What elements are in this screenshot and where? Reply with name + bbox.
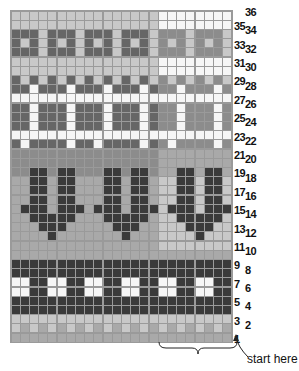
chart-cell xyxy=(196,251,204,259)
chart-cell xyxy=(48,39,56,47)
chart-cell xyxy=(168,177,176,185)
chart-cell xyxy=(168,232,176,240)
chart-cell xyxy=(131,58,139,66)
chart-cell xyxy=(140,186,148,194)
chart-cell xyxy=(48,205,56,213)
chart-cell xyxy=(168,12,176,20)
chart-cell xyxy=(67,104,75,112)
chart-cell xyxy=(223,39,231,47)
chart-cell xyxy=(159,104,167,112)
chart-cell xyxy=(205,306,213,314)
chart-cell xyxy=(58,288,66,296)
chart-cell xyxy=(223,177,231,185)
chart-cell xyxy=(150,297,158,305)
chart-cell xyxy=(131,306,139,314)
chart-cell xyxy=(150,76,158,84)
chart-cell xyxy=(113,168,121,176)
chart-cell xyxy=(186,140,194,148)
row-number: 13 xyxy=(234,224,245,235)
chart-cell xyxy=(39,214,47,222)
chart-cell xyxy=(205,48,213,56)
chart-cell xyxy=(58,30,66,38)
chart-cell xyxy=(104,85,112,93)
chart-cell xyxy=(67,334,75,342)
chart-cell xyxy=(67,30,75,38)
chart-cell xyxy=(214,150,222,158)
chart-cell xyxy=(186,94,194,102)
chart-cell xyxy=(214,131,222,139)
chart-cell xyxy=(104,205,112,213)
row-number: 32 xyxy=(245,44,256,55)
chart-cell xyxy=(21,58,29,66)
chart-cell xyxy=(186,196,194,204)
chart-cell xyxy=(85,67,93,75)
chart-cell xyxy=(30,269,38,277)
chart-cell xyxy=(12,159,20,167)
chart-cell xyxy=(104,168,112,176)
chart-cell xyxy=(122,324,130,332)
chart-cell xyxy=(21,223,29,231)
chart-cell xyxy=(168,85,176,93)
chart-cell xyxy=(67,196,75,204)
chart-cell xyxy=(205,214,213,222)
chart-cell xyxy=(21,278,29,286)
chart-cell xyxy=(58,85,66,93)
chart-cell xyxy=(177,223,185,231)
chart-cell xyxy=(205,315,213,323)
chart-cell xyxy=(131,232,139,240)
chart-cell xyxy=(85,242,93,250)
row-number: 25 xyxy=(234,113,245,124)
chart-cell xyxy=(104,76,112,84)
chart-cell xyxy=(104,104,112,112)
chart-cell xyxy=(177,186,185,194)
chart-cell xyxy=(94,85,102,93)
chart-cell xyxy=(177,94,185,102)
chart-cell xyxy=(223,104,231,112)
chart-cell xyxy=(85,30,93,38)
chart-cell xyxy=(131,334,139,342)
chart-cell xyxy=(85,306,93,314)
chart-cell xyxy=(85,21,93,29)
chart-cell xyxy=(104,251,112,259)
chart-cell xyxy=(177,177,185,185)
chart-cell xyxy=(85,278,93,286)
chart-cell xyxy=(214,67,222,75)
chart-cell xyxy=(67,85,75,93)
chart-cell xyxy=(205,186,213,194)
chart-cell xyxy=(205,288,213,296)
chart-cell xyxy=(104,94,112,102)
chart-cell xyxy=(205,278,213,286)
chart-cell xyxy=(104,242,112,250)
chart-cell xyxy=(12,223,20,231)
chart-cell xyxy=(76,150,84,158)
chart-cell xyxy=(205,223,213,231)
chart-cell xyxy=(85,140,93,148)
chart-cell xyxy=(205,39,213,47)
chart-cell xyxy=(205,150,213,158)
chart-cell xyxy=(140,242,148,250)
chart-cell xyxy=(113,186,121,194)
chart-cell xyxy=(67,159,75,167)
row-number: 16 xyxy=(245,191,256,202)
chart-cell xyxy=(12,58,20,66)
chart-cell xyxy=(76,67,84,75)
chart-cell xyxy=(85,58,93,66)
chart-cell xyxy=(30,334,38,342)
chart-cell xyxy=(76,94,84,102)
chart-cell xyxy=(168,30,176,38)
chart-cell xyxy=(150,334,158,342)
chart-cell xyxy=(186,85,194,93)
chart-cell xyxy=(196,260,204,268)
chart-cell xyxy=(214,30,222,38)
chart-cell xyxy=(223,122,231,130)
chart-cell xyxy=(12,186,20,194)
chart-cell xyxy=(205,168,213,176)
chart-cell xyxy=(30,196,38,204)
chart-cell xyxy=(140,113,148,121)
chart-cell xyxy=(113,159,121,167)
chart-cell xyxy=(168,260,176,268)
chart-cell xyxy=(48,214,56,222)
chart-cell xyxy=(85,186,93,194)
chart-cell xyxy=(76,122,84,130)
chart-cell xyxy=(94,104,102,112)
